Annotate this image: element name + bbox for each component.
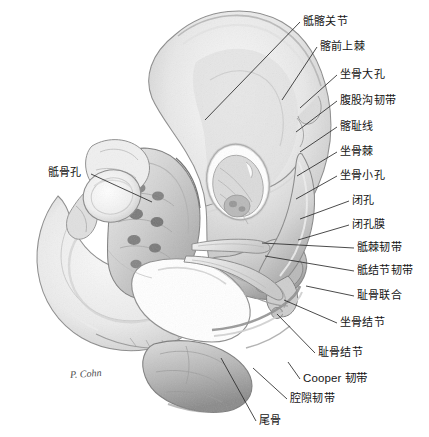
leader-cooper-ligament	[288, 362, 300, 379]
label-anterior-superior-iliac-spine: 髂前上棘	[320, 40, 365, 53]
label-pubic-tubercle: 耻骨结节	[318, 346, 363, 359]
label-iliopectineal-line: 髂耻线	[340, 120, 374, 133]
label-sacrotuberous-ligament: 骶结节韧带	[357, 264, 413, 277]
leader-pubic-tubercle	[277, 314, 315, 353]
label-obturator-foramen: 闭孔	[352, 194, 374, 207]
coccyx	[143, 341, 252, 413]
artist-signature: P. Cohn	[70, 367, 102, 380]
label-sacrospinous-ligament: 骶棘韧带	[357, 241, 402, 254]
label-cooper-ligament: Cooper 韧带	[303, 372, 367, 385]
leader-pubic-symphysis	[306, 286, 354, 296]
leader-lacunar-ligament	[253, 368, 287, 399]
label-obturator-membrane: 闭孔膜	[352, 218, 386, 231]
pelvis-anatomy-figure: 骶髂关节髂前上棘坐骨大孔腹股沟韧带髂耻线坐骨棘坐骨小孔闭孔闭孔膜骶棘韧带骶结节韧…	[0, 0, 429, 437]
label-ischial-tuberosity: 坐骨结节	[340, 316, 385, 329]
lacunar-ligament-band	[246, 326, 290, 348]
label-sacroiliac-joint: 骶髂关节	[303, 15, 348, 28]
label-greater-sciatic-foramen: 坐骨大孔	[340, 68, 385, 81]
label-lacunar-ligament: 腔隙韧带	[290, 392, 335, 405]
label-ischial-spine: 坐骨棘	[340, 145, 374, 158]
label-inguinal-ligament: 腹股沟韧带	[340, 94, 396, 107]
label-lesser-sciatic-foramen: 坐骨小孔	[340, 169, 385, 182]
label-sacral-foramina: 骶骨孔	[48, 166, 82, 179]
label-coccyx: 尾骨	[259, 414, 281, 427]
label-pubic-symphysis: 耻骨联合	[357, 289, 402, 302]
